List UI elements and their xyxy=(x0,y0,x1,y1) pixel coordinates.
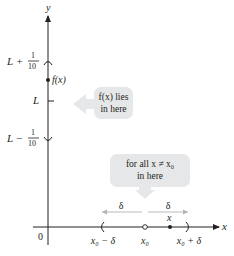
lower-bound-label: L − 1 10 xyxy=(6,128,39,148)
l-label: L xyxy=(32,94,39,106)
svg-text:f(x) lies: f(x) lies xyxy=(99,92,129,103)
svg-text:1: 1 xyxy=(31,128,35,137)
svg-text:L −: L − xyxy=(6,132,23,144)
svg-text:10: 10 xyxy=(28,139,36,148)
fx-point xyxy=(46,78,50,82)
x-bubble: for all x ≠ x₀ in here xyxy=(110,154,190,199)
x0-open-point xyxy=(143,225,148,230)
svg-text:L +: L + xyxy=(6,55,23,67)
x0-plus-delta-label: x₀ + δ xyxy=(176,235,202,246)
x0-minus-delta-label: x₀ − δ xyxy=(90,235,116,246)
fx-bubble: f(x) lies in here xyxy=(73,87,133,119)
upper-bound-label: L + 1 10 xyxy=(6,51,39,71)
svg-text:1: 1 xyxy=(31,51,35,60)
x-axis-label: x xyxy=(221,220,227,232)
svg-text:for all x ≠ x₀: for all x ≠ x₀ xyxy=(126,159,174,169)
y-axis-label: y xyxy=(45,2,51,13)
epsilon-delta-diagram: y x 0 L + 1 10 L L − 1 10 f(x) f(x) lies… xyxy=(0,0,234,256)
origin-label: 0 xyxy=(38,231,43,242)
x-point-label: x xyxy=(166,212,172,223)
svg-text:in here: in here xyxy=(100,104,126,114)
right-delta-label: δ xyxy=(166,200,171,211)
svg-text:10: 10 xyxy=(28,62,36,71)
fx-label: f(x) xyxy=(52,74,67,86)
x0-label: x₀ xyxy=(140,235,149,246)
svg-text:in here: in here xyxy=(137,171,163,181)
left-delta-label: δ xyxy=(119,200,124,211)
x-point xyxy=(168,225,172,229)
